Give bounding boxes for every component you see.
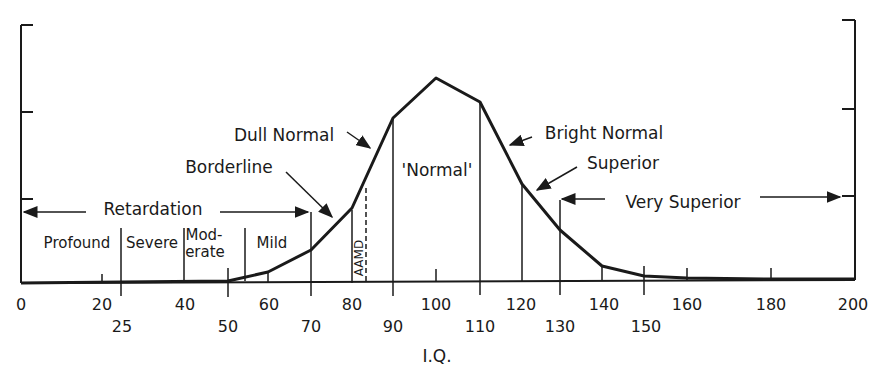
x-axis-label: I.Q. <box>422 346 451 366</box>
label-superior: Superior <box>587 153 659 173</box>
svg-text:100: 100 <box>421 295 452 314</box>
svg-text:160: 160 <box>672 295 703 314</box>
label-very-superior: Very Superior <box>625 192 740 212</box>
iq-curve <box>21 78 855 283</box>
label-profound: Profound <box>44 234 111 252</box>
label-borderline: Borderline <box>185 157 273 177</box>
label-normal: 'Normal' <box>402 160 473 180</box>
label-moderate-2: erate <box>185 243 225 261</box>
svg-text:0: 0 <box>16 295 26 314</box>
svg-text:90: 90 <box>383 317 403 336</box>
svg-text:200: 200 <box>838 295 869 314</box>
label-moderate-1: Mod- <box>185 226 222 244</box>
iq-distribution-chart: Retardation Profound Severe Mod- erate M… <box>0 0 886 376</box>
label-aamd: AAMD <box>352 240 366 276</box>
svg-text:70: 70 <box>301 317 321 336</box>
svg-text:120: 120 <box>506 295 537 314</box>
svg-text:110: 110 <box>465 317 496 336</box>
category-labels: Retardation Profound Severe Mod- erate M… <box>44 123 741 276</box>
svg-text:25: 25 <box>112 317 132 336</box>
svg-text:130: 130 <box>545 317 576 336</box>
svg-text:60: 60 <box>259 295 279 314</box>
svg-text:140: 140 <box>589 295 620 314</box>
x-tick-labels: 0 20 40 60 80 100 120 140 160 180 200 25… <box>16 295 868 336</box>
svg-text:50: 50 <box>218 317 238 336</box>
svg-text:180: 180 <box>756 295 787 314</box>
svg-text:20: 20 <box>92 295 112 314</box>
svg-text:150: 150 <box>631 317 662 336</box>
label-dull-normal: Dull Normal <box>234 125 334 145</box>
label-bright-normal: Bright Normal <box>545 123 664 143</box>
svg-text:40: 40 <box>175 295 195 314</box>
label-severe: Severe <box>126 234 178 252</box>
label-retardation: Retardation <box>103 199 202 219</box>
label-mild: Mild <box>257 234 288 252</box>
svg-text:80: 80 <box>342 295 362 314</box>
